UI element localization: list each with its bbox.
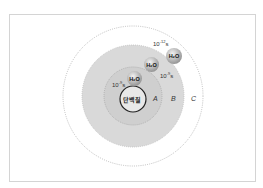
water-molecule-3: H₂O (166, 48, 182, 64)
time-label-1: 10-9s (112, 81, 125, 88)
hydration-shell-diagram (0, 0, 263, 188)
region-a-label: A (153, 95, 158, 102)
region-b-label: B (171, 95, 176, 102)
time-label-3: 10-12s (153, 40, 168, 47)
water-molecule-1: H₂O (127, 71, 142, 86)
protein-label: 단백질 (123, 95, 141, 104)
time-label-2: 10-9s (160, 72, 173, 79)
water-molecule-2: H₂O (144, 57, 159, 72)
region-c-label: C (191, 95, 196, 102)
